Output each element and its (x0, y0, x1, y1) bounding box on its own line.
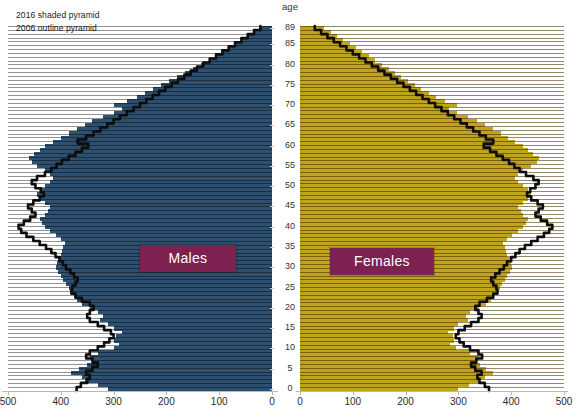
age-axis-title: age (272, 1, 308, 12)
male-x-axis-line (2, 391, 278, 392)
age-axis-tick-label: 60 (275, 140, 305, 150)
age-axis-tick (270, 267, 274, 268)
age-axis-tick-label: 75 (275, 79, 305, 89)
age-axis-tick (270, 348, 274, 349)
x-axis-tick (406, 391, 407, 395)
age-axis-tick (270, 146, 274, 147)
x-axis-tick-label: 300 (438, 396, 478, 407)
x-axis-tick (272, 391, 273, 395)
age-axis-tick (270, 125, 274, 126)
age-axis-tick-label: 20 (275, 302, 305, 312)
age-axis-tick-label: 89 (275, 22, 305, 32)
x-axis-tick (511, 391, 512, 395)
x-axis-tick-label: 300 (94, 396, 134, 407)
series-label-males: Males (140, 245, 236, 272)
age-axis-tick (270, 206, 274, 207)
x-axis-tick-label: 200 (146, 396, 186, 407)
x-axis-tick (353, 391, 354, 395)
age-axis-tick-label: 55 (275, 160, 305, 170)
x-axis-tick (166, 391, 167, 395)
x-axis-tick-label: 200 (386, 396, 426, 407)
age-axis-tick (270, 85, 274, 86)
male-2006-outline (8, 26, 272, 391)
series-label-females: Females (330, 248, 434, 275)
age-axis-tick-label: 85 (275, 38, 305, 48)
x-axis-tick (219, 391, 220, 395)
female-2006-outline (300, 26, 564, 391)
female-x-axis-line (296, 391, 568, 392)
age-axis-tick (270, 186, 274, 187)
age-axis-tick-label: 15 (275, 322, 305, 332)
age-axis-tick (270, 389, 274, 390)
x-axis-tick-label: 500 (544, 396, 577, 407)
x-axis-tick-label: 500 (0, 396, 28, 407)
x-axis-tick (458, 391, 459, 395)
age-axis-tick (270, 308, 274, 309)
age-axis-tick (270, 247, 274, 248)
x-axis-tick (564, 391, 565, 395)
x-axis-tick-label: 0 (280, 396, 320, 407)
age-axis-tick-label: 80 (275, 59, 305, 69)
x-axis-tick (8, 391, 9, 395)
age-axis-tick-label: 50 (275, 180, 305, 190)
age-axis-tick (270, 369, 274, 370)
age-axis-tick (270, 28, 274, 29)
age-axis-tick (270, 227, 274, 228)
age-axis-tick (270, 328, 274, 329)
age-axis-tick-label: 40 (275, 221, 305, 231)
age-axis-tick-label: 25 (275, 282, 305, 292)
age-axis-tick (270, 44, 274, 45)
male-pyramid-plot (8, 26, 272, 391)
x-axis-tick (61, 391, 62, 395)
age-axis-tick-label: 0 (275, 383, 305, 393)
age-axis-tick-label: 30 (275, 261, 305, 271)
age-axis-tick (270, 105, 274, 106)
age-axis-tick-label: 45 (275, 200, 305, 210)
female-pyramid-plot (300, 26, 564, 391)
age-axis-tick-label: 70 (275, 99, 305, 109)
age-axis-tick-label: 65 (275, 119, 305, 129)
age-axis-tick (270, 288, 274, 289)
age-axis-tick (270, 166, 274, 167)
x-axis-tick-label: 400 (491, 396, 531, 407)
x-axis-tick-label: 400 (41, 396, 81, 407)
legend-item-2016: 2016 shaded pyramid (16, 9, 100, 22)
age-axis-tick (270, 65, 274, 66)
age-axis-tick-label: 35 (275, 241, 305, 251)
x-axis-tick-label: 100 (199, 396, 239, 407)
x-axis-tick (114, 391, 115, 395)
age-axis-tick-label: 5 (275, 363, 305, 373)
age-axis-tick-label: 10 (275, 342, 305, 352)
x-axis-tick-label: 100 (333, 396, 373, 407)
